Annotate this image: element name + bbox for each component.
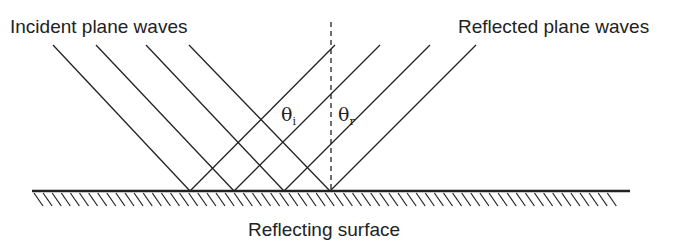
incident-ray <box>96 45 234 191</box>
theta-i-label: θi <box>281 103 296 128</box>
reflected-label: Reflected plane waves <box>458 16 649 38</box>
hatch-mark <box>571 193 580 206</box>
hatch-mark <box>107 193 116 206</box>
hatch-mark <box>143 193 152 206</box>
hatch-mark <box>289 193 298 206</box>
hatch-mark <box>416 193 425 206</box>
hatch-mark <box>189 193 198 206</box>
hatch-mark <box>325 193 334 206</box>
hatch-mark <box>70 193 79 206</box>
hatch-mark <box>271 193 280 206</box>
hatch-mark <box>516 193 525 206</box>
hatch-mark <box>525 193 534 206</box>
reflected-rays <box>190 45 476 191</box>
hatch-mark <box>252 193 261 206</box>
hatch-mark <box>225 193 234 206</box>
theta-i-symbol: θ <box>281 103 292 125</box>
hatch-mark <box>298 193 307 206</box>
hatch-mark <box>307 193 316 206</box>
hatch-mark <box>280 193 289 206</box>
hatch-mark <box>161 193 170 206</box>
hatch-mark <box>407 193 416 206</box>
hatch-mark <box>498 193 507 206</box>
hatch-mark <box>98 193 107 206</box>
hatch-mark <box>180 193 189 206</box>
hatch-mark <box>52 193 61 206</box>
incident-label: Incident plane waves <box>10 16 187 38</box>
hatch-mark <box>562 193 571 206</box>
reflected-ray <box>234 45 380 191</box>
hatch-mark <box>607 193 616 206</box>
hatch-mark <box>444 193 453 206</box>
hatch-mark <box>589 193 598 206</box>
hatch-mark <box>371 193 380 206</box>
hatch-mark <box>334 193 343 206</box>
hatch-mark <box>471 193 480 206</box>
hatch-mark <box>362 193 371 206</box>
hatch-mark <box>343 193 352 206</box>
hatch-mark <box>389 193 398 206</box>
hatch-mark <box>553 193 562 206</box>
incident-ray <box>189 45 330 191</box>
hatch-mark <box>462 193 471 206</box>
hatch-mark <box>580 193 589 206</box>
hatch-mark <box>425 193 434 206</box>
hatch-mark <box>125 193 134 206</box>
theta-r-subscript: r <box>349 115 354 128</box>
hatch-mark <box>116 193 125 206</box>
hatch-mark <box>243 193 252 206</box>
hatch-mark <box>598 193 607 206</box>
hatch-mark <box>207 193 216 206</box>
hatch-mark <box>544 193 553 206</box>
hatch-mark <box>262 193 271 206</box>
hatch-mark <box>434 193 443 206</box>
hatch-mark <box>43 193 52 206</box>
hatch-mark <box>507 193 516 206</box>
hatch-mark <box>398 193 407 206</box>
theta-r-symbol: θ <box>338 103 349 125</box>
surface-label: Reflecting surface <box>248 219 400 241</box>
theta-i-subscript: i <box>292 115 296 128</box>
hatch-mark <box>489 193 498 206</box>
hatch-mark <box>353 193 362 206</box>
hatch-mark <box>234 193 243 206</box>
hatch-mark <box>380 193 389 206</box>
hatch-mark <box>480 193 489 206</box>
incident-ray <box>53 45 190 191</box>
hatch-mark <box>535 193 544 206</box>
reflected-ray <box>284 45 430 191</box>
theta-r-label: θr <box>338 103 355 128</box>
hatch-mark <box>216 193 225 206</box>
hatch-mark <box>171 193 180 206</box>
hatch-mark <box>34 193 43 206</box>
hatch-mark <box>316 193 325 206</box>
hatch-mark <box>134 193 143 206</box>
hatch-mark <box>453 193 462 206</box>
hatch-mark <box>61 193 70 206</box>
hatch-mark <box>80 193 89 206</box>
hatch-mark <box>89 193 98 206</box>
hatch-mark <box>198 193 207 206</box>
hatch-mark <box>152 193 161 206</box>
reflection-diagram: Incident plane waves Reflected plane wav… <box>0 0 682 252</box>
surface-hatching <box>34 193 616 206</box>
